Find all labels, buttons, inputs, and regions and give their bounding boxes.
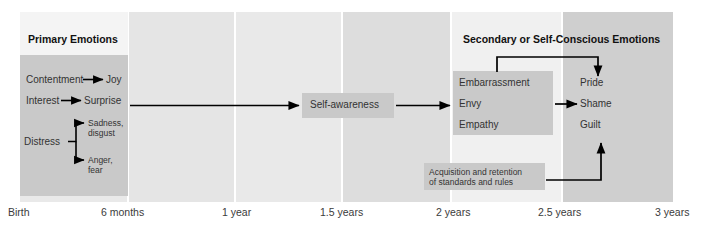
distress-branch-1-line-1: Sadness, [88, 118, 123, 128]
secondary-item-empathy: Empathy [459, 119, 498, 130]
primary-row-0-target: Joy [106, 74, 122, 85]
distress-branch-2-line-1: Anger, [88, 155, 113, 165]
primary-row-1-target: Surprise [84, 95, 121, 106]
axis-tick-2-5-years: 2.5 years [538, 206, 581, 218]
axis-tick-1-year: 1 year [222, 206, 251, 218]
primary-row-1-source: Interest [26, 95, 59, 106]
standards-box-line-1: Acquisition and retention [429, 167, 522, 177]
axis-tick-6-months: 6 months [101, 206, 144, 218]
timeline-band-1 [129, 12, 234, 202]
secondary-item-shame: Shame [580, 98, 612, 109]
self-awareness-label: Self-awareness [310, 99, 379, 110]
standards-box-line-2: of standards and rules [429, 177, 513, 187]
axis-tick-birth: Birth [8, 206, 30, 218]
distress-branch-2-line-2: fear [88, 165, 103, 175]
primary-row-0-source: Contentment [26, 74, 83, 85]
axis-tick-2-years: 2 years [436, 206, 470, 218]
distress-branch-1-line-2: disgust [88, 128, 115, 138]
secondary-item-envy: Envy [459, 98, 481, 109]
emotion-development-diagram: Primary Emotions Contentment Joy Interes… [0, 0, 702, 247]
axis-tick-3-years: 3 years [655, 206, 689, 218]
secondary-item-guilt: Guilt [580, 119, 601, 130]
axis-tick-1-5-years: 1.5 years [320, 206, 363, 218]
primary-emotions-title: Primary Emotions [28, 33, 118, 45]
secondary-item-pride: Pride [580, 77, 603, 88]
secondary-emotions-title: Secondary or Self-Conscious Emotions [463, 33, 660, 45]
secondary-item-embarrassment: Embarrassment [459, 77, 530, 88]
distress-label: Distress [24, 136, 60, 147]
